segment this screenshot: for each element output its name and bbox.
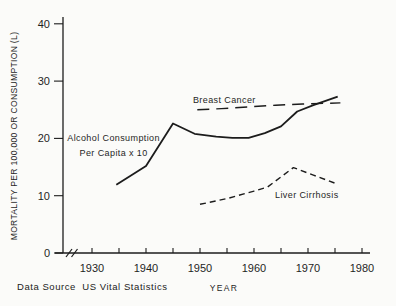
x-tick-label: 1930	[80, 262, 104, 274]
chart-canvas: 193019401950196019701980010203040Alcohol…	[0, 0, 396, 306]
y-tick-label: 0	[44, 247, 50, 259]
series-label: Per Capita x 10	[80, 148, 148, 158]
figure: 193019401950196019701980010203040Alcohol…	[0, 0, 396, 306]
x-tick-label: 1960	[242, 262, 266, 274]
x-tick-label: 1970	[296, 262, 320, 274]
x-tick-label: 1950	[188, 262, 212, 274]
data-source-note: Data Source US Vital Statistics	[17, 281, 167, 292]
series-label: Alcohol Consumption	[67, 133, 160, 143]
y-tick-label: 10	[38, 190, 50, 202]
y-tick-label: 30	[38, 75, 50, 87]
x-tick-label: 1980	[350, 262, 374, 274]
y-tick-label: 20	[38, 132, 50, 144]
y-axis-title: MORTALITY PER 100,000 OR CONSUMPTION (L)	[9, 32, 19, 241]
x-axis-title: YEAR	[210, 283, 239, 293]
series-label: Breast Cancer	[193, 95, 256, 105]
series-label: Liver Cirrhosis	[275, 190, 339, 200]
x-tick-label: 1940	[134, 262, 158, 274]
y-tick-label: 40	[38, 18, 50, 30]
